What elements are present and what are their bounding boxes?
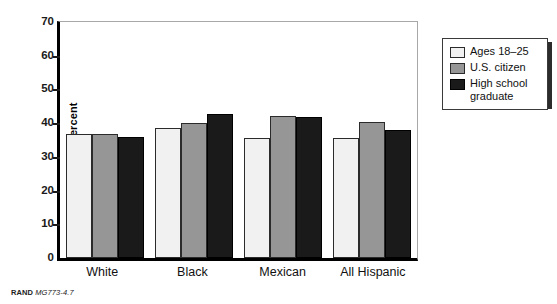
- y-tick-mark: [53, 89, 60, 91]
- legend-item: High schoolgraduate: [450, 77, 540, 102]
- source-reference: MG773-4.7: [35, 288, 73, 297]
- bar: [385, 130, 411, 258]
- bar: [296, 117, 322, 258]
- bar: [207, 114, 233, 258]
- bar: [118, 137, 144, 258]
- y-tick-label: 60: [28, 50, 54, 62]
- bar: [92, 134, 118, 258]
- legend-item: Ages 18–25: [450, 45, 540, 58]
- legend-label: U.S. citizen: [470, 61, 526, 74]
- bar: [270, 116, 296, 258]
- x-axis-label: All Hispanic: [328, 265, 418, 279]
- y-tick-mark: [53, 191, 60, 193]
- legend-swatch-icon: [450, 47, 465, 58]
- y-tick-mark: [53, 224, 60, 226]
- source-organization: RAND: [11, 288, 33, 297]
- y-tick-label: 20: [28, 185, 54, 197]
- x-axis-labels: WhiteBlackMexicanAll Hispanic: [57, 265, 418, 279]
- x-axis-label: White: [57, 265, 147, 279]
- y-tick-label: 50: [28, 84, 54, 96]
- bar-group-all-hispanic: [333, 22, 411, 258]
- x-axis-label: Mexican: [238, 265, 328, 279]
- legend-item: U.S. citizen: [450, 61, 540, 74]
- source-note: RAND MG773-4.7: [11, 288, 74, 297]
- y-tick-label: 40: [28, 117, 54, 129]
- bar: [333, 138, 359, 258]
- bar: [155, 128, 181, 258]
- y-tick-mark: [53, 56, 60, 58]
- y-tick-label: 70: [28, 16, 54, 28]
- bar: [66, 134, 92, 258]
- y-tick-label: 0: [28, 252, 54, 264]
- figure-container: Percent 706050403020100 WhiteBlackMexica…: [0, 0, 557, 304]
- bar: [181, 123, 207, 258]
- bar-groups: [60, 22, 417, 258]
- bar-group-mexican: [244, 22, 322, 258]
- bar-group-white: [66, 22, 144, 258]
- y-tick-label: 10: [28, 219, 54, 231]
- y-tick-label: 30: [28, 151, 54, 163]
- legend-swatch-icon: [450, 79, 465, 90]
- plot-area: Percent 706050403020100: [57, 21, 418, 261]
- legend-swatch-icon: [450, 63, 465, 74]
- chart-legend: Ages 18–25U.S. citizenHigh schoolgraduat…: [442, 38, 548, 110]
- bar: [244, 138, 270, 258]
- y-tick-mark: [53, 157, 60, 159]
- legend-label: Ages 18–25: [470, 45, 529, 58]
- bar-group-black: [155, 22, 233, 258]
- bar: [359, 122, 385, 258]
- legend-label: High schoolgraduate: [470, 77, 527, 102]
- y-tick-mark: [53, 123, 60, 125]
- x-axis-label: Black: [147, 265, 237, 279]
